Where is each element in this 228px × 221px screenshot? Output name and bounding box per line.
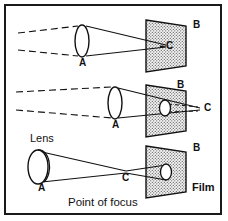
label-film-plane-top: B: [193, 20, 200, 30]
blur-circle-middle: [160, 100, 171, 116]
label-lens-bottom: A: [38, 183, 45, 193]
label-lens-middle: A: [112, 120, 119, 130]
converging-ray-upper-bottom: [42, 152, 126, 171]
object-ray-upper-middle: [16, 87, 112, 92]
label-focus-point-top: C: [166, 41, 173, 51]
panel-middle: [16, 85, 200, 137]
panel-bottom: [28, 146, 186, 198]
label-film-name: Film: [192, 182, 215, 193]
optics-figure: B C A B C A B C A Lens Film Point of foc…: [0, 0, 228, 221]
object-ray-upper-top: [18, 26, 78, 33]
lens-top: [75, 25, 89, 57]
label-focus-point-bottom: C: [122, 173, 129, 183]
converging-ray-lower-bottom: [42, 173, 126, 182]
label-film-plane-middle: B: [177, 80, 184, 90]
blur-circle-bottom: [161, 164, 172, 180]
label-lens-top: A: [79, 58, 86, 68]
lens-middle: [108, 87, 122, 119]
label-focus-point-middle: C: [204, 103, 211, 113]
lens-bottom: [28, 150, 48, 184]
panel-top: [18, 20, 186, 72]
label-lens-name: Lens: [30, 133, 54, 144]
label-film-plane-bottom: B: [193, 143, 200, 153]
figure-caption: Point of focus: [68, 197, 138, 209]
object-ray-lower-middle: [16, 110, 112, 118]
object-ray-lower-top: [18, 50, 78, 56]
